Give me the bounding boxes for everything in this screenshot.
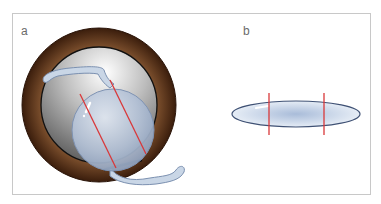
lens-optic — [72, 89, 154, 171]
panel-b-label: b — [243, 24, 250, 38]
figure: a b — [0, 0, 381, 204]
lens-side-view — [232, 101, 360, 127]
lens-highlight-dot — [83, 115, 85, 117]
panel-a-label: a — [21, 24, 28, 38]
